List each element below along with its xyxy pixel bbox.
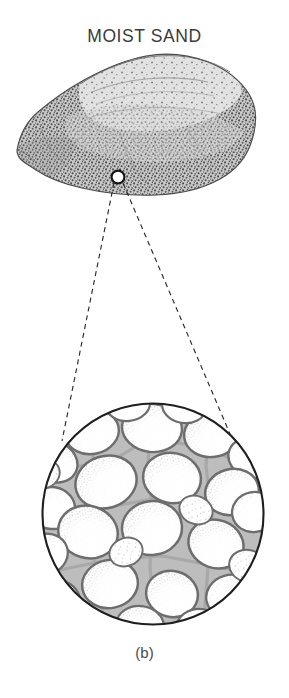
moist-sand-specimen — [10, 45, 270, 205]
leader-line-right — [123, 183, 233, 441]
leader-lines — [62, 183, 233, 441]
sand-grains — [18, 385, 281, 650]
magnification-point-marker — [112, 171, 125, 184]
figure-artwork — [0, 0, 289, 698]
figure-caption: (b) — [0, 644, 289, 661]
leader-line-left — [62, 183, 114, 441]
figure-root: MOIST SAND — [0, 0, 289, 698]
magnified-pore-inset — [18, 385, 281, 650]
